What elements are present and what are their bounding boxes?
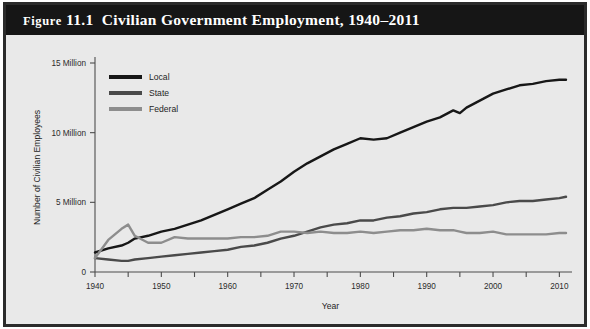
y-tick-label: 0 — [81, 268, 86, 277]
figure-container: Figure 11.1 Civilian Government Employme… — [0, 0, 590, 329]
x-tick-label: 1970 — [285, 282, 304, 291]
series-line-state — [95, 197, 566, 261]
legend-label-local: Local — [149, 72, 170, 82]
plot-area: 05 Million10 Million15 Million1940195019… — [6, 35, 584, 324]
figure-title-text: Civilian Government Employment, 1940–201… — [102, 11, 420, 28]
figure-number: 11.1 — [66, 11, 93, 28]
figure-title-band: Figure 11.1 Civilian Government Employme… — [6, 5, 584, 35]
figure-label: Figure — [23, 14, 62, 28]
line-chart: 05 Million10 Million15 Million1940195019… — [6, 35, 584, 328]
x-tick-label: 1980 — [351, 282, 370, 291]
y-tick-label: 5 Million — [56, 198, 86, 207]
legend-label-state: State — [149, 88, 169, 98]
x-tick-label: 1960 — [219, 282, 238, 291]
x-axis-title: Year — [322, 301, 340, 311]
y-tick-label: 15 Million — [51, 59, 86, 68]
y-axis-title: Number of Civilian Employees — [32, 110, 42, 225]
x-tick-label: 1940 — [86, 282, 105, 291]
figure-title: Figure 11.1 Civilian Government Employme… — [6, 11, 420, 29]
legend-label-federal: Federal — [149, 104, 178, 114]
y-tick-label: 10 Million — [51, 129, 86, 138]
x-tick-label: 2000 — [484, 282, 503, 291]
x-tick-label: 2010 — [550, 282, 569, 291]
x-tick-label: 1950 — [152, 282, 171, 291]
figure-frame: Figure 11.1 Civilian Government Employme… — [3, 2, 587, 327]
x-tick-label: 1990 — [418, 282, 437, 291]
